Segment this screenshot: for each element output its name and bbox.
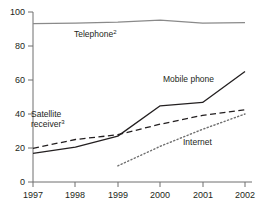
series-label-satellite-receiver-superscript: 3: [61, 119, 65, 125]
y-tick-label-100: 100: [10, 7, 25, 17]
series-label-satellite-receiver-line2: receiver3: [31, 119, 65, 129]
y-tick-label-0: 0: [20, 177, 25, 187]
series-label-telephone: Telephone2: [74, 29, 117, 39]
x-tick-label-2002: 2002: [235, 190, 255, 200]
chart-canvas: 100 80 60 40 20 0 1997 1998 1999 2000 20…: [0, 0, 261, 208]
series-label-satellite-receiver-line1: Satellite: [31, 109, 62, 119]
series-line-telephone: [33, 20, 245, 23]
line-chart: 100 80 60 40 20 0 1997 1998 1999 2000 20…: [0, 0, 261, 208]
series-label-telephone-text: Telephone: [74, 29, 114, 39]
x-tick-label-1999: 1999: [108, 190, 128, 200]
y-tick-label-80: 80: [15, 41, 25, 51]
series-label-satellite-receiver-text: receiver: [31, 119, 61, 129]
x-tick-label-1997: 1997: [23, 190, 43, 200]
x-tick-label-1998: 1998: [65, 190, 85, 200]
series-label-mobile-phone: Mobile phone: [163, 74, 214, 84]
series-label-telephone-superscript: 2: [113, 29, 117, 35]
x-axis-ticks: [33, 182, 245, 187]
y-tick-label-20: 20: [15, 143, 25, 153]
y-axis-ticks: [28, 12, 33, 182]
series-line-satellite-receiver: [33, 110, 245, 149]
x-tick-label-2000: 2000: [150, 190, 170, 200]
series-label-internet: Internet: [183, 137, 212, 147]
y-tick-label-60: 60: [15, 75, 25, 85]
y-tick-label-40: 40: [15, 109, 25, 119]
x-tick-label-2001: 2001: [193, 190, 213, 200]
